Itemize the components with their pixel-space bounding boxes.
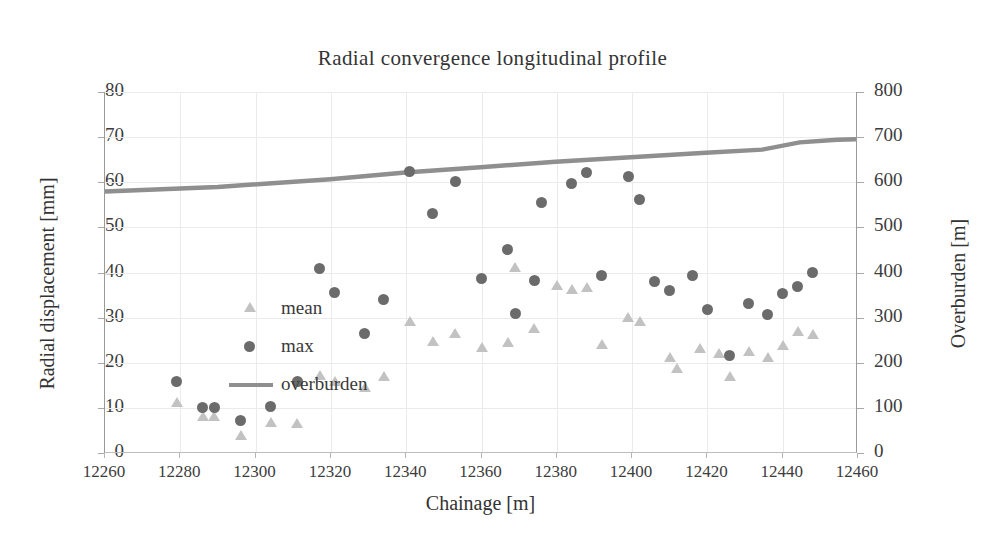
data-point-mean xyxy=(724,371,736,381)
data-point-mean xyxy=(664,352,676,362)
y-axis-right-tick-label: 400 xyxy=(874,260,903,282)
chart-legend: mean max overburden xyxy=(227,295,457,409)
x-axis-tick-label: 12320 xyxy=(309,462,352,482)
chart-title: Radial convergence longitudinal profile xyxy=(0,46,985,71)
data-points-layer xyxy=(105,92,856,452)
legend-item-overburden: overburden xyxy=(227,371,457,409)
data-point-max xyxy=(171,376,182,387)
y-axis-right-tickmark xyxy=(857,453,864,454)
data-point-mean xyxy=(235,430,247,440)
data-point-mean xyxy=(502,337,514,347)
data-point-max xyxy=(536,197,547,208)
data-point-mean xyxy=(762,352,774,362)
data-point-mean xyxy=(671,363,683,373)
data-point-max xyxy=(235,415,246,426)
x-axis-tick-label: 12380 xyxy=(535,462,578,482)
y-axis-right-tick-label: 200 xyxy=(874,350,903,372)
x-axis-tickmark xyxy=(104,453,105,458)
x-axis-tickmark xyxy=(782,453,783,458)
data-point-max xyxy=(427,208,438,219)
data-point-max xyxy=(702,304,713,315)
y-axis-right-tick-label: 500 xyxy=(874,214,903,236)
y-axis-right-tick-label: 0 xyxy=(874,440,884,462)
data-point-max xyxy=(792,281,803,292)
data-point-max xyxy=(743,298,754,309)
data-point-mean xyxy=(694,343,706,353)
data-point-mean xyxy=(566,284,578,294)
x-axis-tickmark xyxy=(857,453,858,458)
data-point-max xyxy=(314,263,325,274)
x-axis-tickmark xyxy=(405,453,406,458)
y-axis-right-tick-label: 300 xyxy=(874,305,903,327)
y-axis-right-tick-label: 800 xyxy=(874,79,903,101)
y-axis-right-tickmark xyxy=(857,227,864,228)
y-axis-right-tick-label: 100 xyxy=(874,395,903,417)
data-point-mean xyxy=(622,312,634,322)
data-point-max xyxy=(596,270,607,281)
x-axis-tick-label: 12420 xyxy=(685,462,728,482)
data-point-max xyxy=(777,288,788,299)
data-point-max xyxy=(476,273,487,284)
data-point-mean xyxy=(777,340,789,350)
x-axis-tick-label: 12280 xyxy=(158,462,201,482)
data-point-max xyxy=(687,270,698,281)
x-axis-tick-label: 12260 xyxy=(83,462,126,482)
data-point-max xyxy=(566,178,577,189)
data-point-mean xyxy=(509,262,521,272)
x-axis-tick-label: 12360 xyxy=(459,462,502,482)
legend-label-mean: mean xyxy=(281,297,322,319)
data-point-mean xyxy=(792,326,804,336)
legend-label-max: max xyxy=(281,335,314,357)
data-point-mean xyxy=(208,411,220,421)
data-point-mean xyxy=(528,323,540,333)
chart-figure: Radial convergence longitudinal profile … xyxy=(0,0,985,553)
triangle-marker-icon xyxy=(244,302,256,312)
data-point-max xyxy=(724,350,735,361)
x-axis-tickmark xyxy=(179,453,180,458)
x-axis-tickmark xyxy=(631,453,632,458)
data-point-max xyxy=(664,285,675,296)
x-axis-tickmark xyxy=(556,453,557,458)
x-axis-tickmark xyxy=(481,453,482,458)
data-point-max xyxy=(510,308,521,319)
legend-item-mean: mean xyxy=(227,295,457,333)
y-axis-right-tickmark xyxy=(857,408,864,409)
data-point-mean xyxy=(551,280,563,290)
x-axis-tick-label: 12340 xyxy=(384,462,427,482)
data-point-max xyxy=(762,309,773,320)
data-point-mean xyxy=(171,397,183,407)
data-point-max xyxy=(404,166,415,177)
data-point-mean xyxy=(581,282,593,292)
x-axis-tickmark xyxy=(330,453,331,458)
x-axis-tickmark xyxy=(255,453,256,458)
y-axis-left-title: Radial displacement [mm] xyxy=(36,119,59,449)
y-axis-right-tick-label: 600 xyxy=(874,169,903,191)
legend-item-max: max xyxy=(227,333,457,371)
plot-area: mean max overburden xyxy=(104,92,857,453)
legend-label-overburden: overburden xyxy=(281,373,368,395)
x-axis-title: Chainage [m] xyxy=(104,492,857,515)
y-axis-right-tickmark xyxy=(857,92,864,93)
y-axis-right-tickmark xyxy=(857,137,864,138)
data-point-mean xyxy=(634,316,646,326)
y-axis-right-tickmark xyxy=(857,182,864,183)
x-axis-tickmark xyxy=(706,453,707,458)
data-point-max xyxy=(502,244,513,255)
y-axis-right-tickmark xyxy=(857,273,864,274)
data-point-max xyxy=(209,402,220,413)
data-point-mean xyxy=(291,418,303,428)
data-point-mean xyxy=(807,329,819,339)
data-point-mean xyxy=(265,417,277,427)
data-point-max xyxy=(529,275,540,286)
circle-marker-icon xyxy=(244,341,255,352)
data-point-max xyxy=(634,194,645,205)
data-point-max xyxy=(623,171,634,182)
x-axis-tick-label: 12440 xyxy=(760,462,803,482)
data-point-max xyxy=(581,167,592,178)
x-axis-tick-label: 12460 xyxy=(836,462,879,482)
x-axis-tick-label: 12400 xyxy=(610,462,653,482)
data-point-max xyxy=(649,276,660,287)
x-axis-tick-label: 12300 xyxy=(233,462,276,482)
data-point-mean xyxy=(713,348,725,358)
y-axis-right-tickmark xyxy=(857,363,864,364)
